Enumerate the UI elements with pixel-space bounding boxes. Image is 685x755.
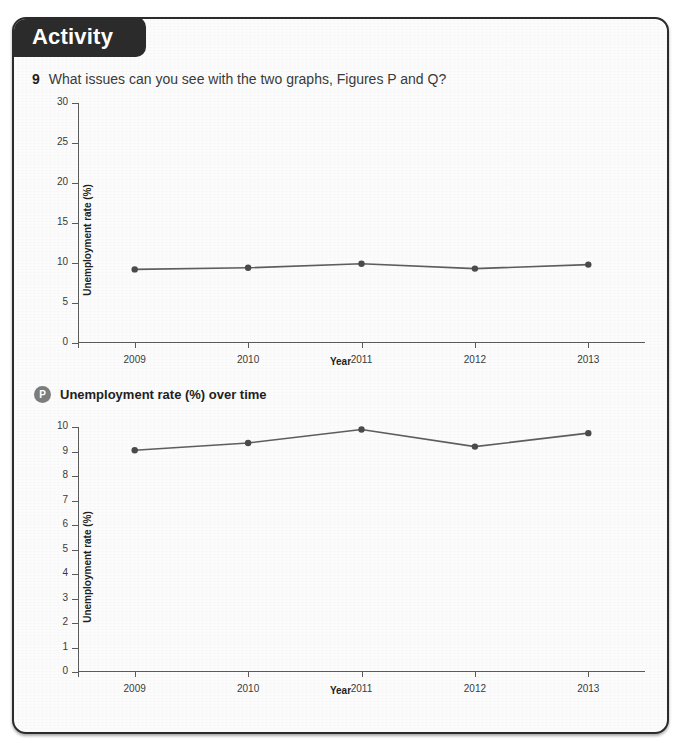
figure-p-chart: Unemployment rate (%) 051015202530200920… <box>14 95 667 385</box>
data-point-marker <box>245 265 251 271</box>
y-tick: 10 <box>72 263 78 264</box>
figure-p-badge: P <box>34 386 51 403</box>
question-row: 9 What issues can you see with the two g… <box>32 71 653 87</box>
y-tick-label: 9 <box>62 445 68 456</box>
y-tick-label: 20 <box>57 176 68 187</box>
y-tick-label: 5 <box>62 296 68 307</box>
y-tick-label: 30 <box>57 96 68 107</box>
y-tick-label: 6 <box>62 518 68 529</box>
y-tick: 30 <box>72 103 78 104</box>
y-tick-label: 0 <box>62 336 68 347</box>
figure-q-plot-area: 01234567891020092010201120122013 <box>78 427 645 672</box>
y-tick-label: 25 <box>57 136 68 147</box>
x-tick: 2010 <box>248 672 249 677</box>
x-tick: 2012 <box>475 672 476 677</box>
y-tick: 15 <box>72 223 78 224</box>
y-tick: 8 <box>72 476 78 477</box>
data-point-marker <box>585 430 591 436</box>
figure-p-caption-text: Unemployment rate (%) over time <box>60 387 267 402</box>
figure-q-x-axis-title: Year <box>26 685 655 696</box>
figure-q-badge: Q <box>34 732 51 734</box>
data-point-marker <box>472 265 478 271</box>
figure-q-caption-text: Employment data <box>60 733 168 734</box>
x-tick: 2013 <box>588 672 589 677</box>
x-tick: 2011 <box>362 672 363 677</box>
y-tick: 6 <box>72 525 78 526</box>
x-tick: 2009 <box>135 672 136 677</box>
x-tick: 2011 <box>362 343 363 348</box>
figure-p-caption: P Unemployment rate (%) over time <box>34 386 267 403</box>
data-point-marker <box>585 261 591 267</box>
y-tick: 5 <box>72 303 78 304</box>
y-tick-label: 1 <box>62 641 68 652</box>
y-tick: 2 <box>72 623 78 624</box>
activity-header-tab: Activity <box>12 17 146 57</box>
figure-p-series <box>78 103 378 253</box>
figure-q-chart: Unemployment rate (%) 012345678910200920… <box>14 419 667 714</box>
y-tick-label: 4 <box>62 567 68 578</box>
y-tick: 9 <box>72 452 78 453</box>
figure-q-caption: Q Employment data <box>34 732 168 734</box>
data-point-marker <box>132 266 138 272</box>
question-text: What issues can you see with the two gra… <box>49 71 446 87</box>
data-point-marker <box>472 443 478 449</box>
x-tick-origin <box>78 672 79 677</box>
y-tick-label: 2 <box>62 616 68 627</box>
question-number: 9 <box>32 71 40 87</box>
activity-title: Activity <box>32 26 113 48</box>
y-tick-label: 3 <box>62 592 68 603</box>
x-tick: 2009 <box>135 343 136 348</box>
y-tick: 7 <box>72 501 78 502</box>
figure-q-series <box>78 427 378 577</box>
y-tick: 20 <box>72 183 78 184</box>
y-tick-label: 5 <box>62 543 68 554</box>
y-tick-label: 10 <box>57 256 68 267</box>
figure-p-plot-area: 05101520253020092010201120122013 <box>78 103 645 343</box>
y-tick-label: 7 <box>62 494 68 505</box>
y-tick: 10 <box>72 427 78 428</box>
x-tick: 2013 <box>588 343 589 348</box>
data-point-marker <box>245 440 251 446</box>
figure-p-x-axis-title: Year <box>26 356 655 367</box>
data-point-marker <box>358 261 364 267</box>
activity-panel: Activity 9 What issues can you see with … <box>12 17 669 734</box>
y-tick-label: 15 <box>57 216 68 227</box>
data-point-marker <box>132 447 138 453</box>
y-tick: 4 <box>72 574 78 575</box>
y-tick-label: 0 <box>62 665 68 676</box>
y-tick-label: 10 <box>57 420 68 431</box>
y-tick: 5 <box>72 550 78 551</box>
y-tick-label: 8 <box>62 469 68 480</box>
data-point-marker <box>358 426 364 432</box>
y-tick: 3 <box>72 599 78 600</box>
x-tick-origin <box>78 343 79 348</box>
x-tick: 2012 <box>475 343 476 348</box>
x-tick: 2010 <box>248 343 249 348</box>
y-tick: 25 <box>72 143 78 144</box>
y-tick: 1 <box>72 648 78 649</box>
